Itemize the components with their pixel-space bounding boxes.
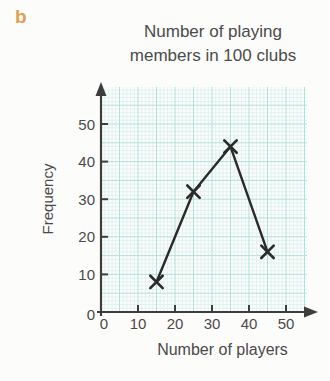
- x-tick-label: 10: [130, 315, 147, 332]
- y-tick-label: 50: [78, 116, 95, 133]
- x-tick-label: 0: [100, 315, 108, 332]
- y-tick-label: 30: [78, 191, 95, 208]
- x-tick-label: 30: [204, 315, 221, 332]
- x-axis-label: Number of players: [115, 341, 330, 359]
- x-tick-label: 20: [167, 315, 184, 332]
- y-tick-label: 20: [78, 228, 95, 245]
- y-tick-label: 0: [87, 306, 95, 323]
- x-tick-label: 50: [278, 315, 295, 332]
- y-tick-label: 40: [78, 153, 95, 170]
- y-tick-label: 10: [78, 266, 95, 283]
- x-tick-label: 40: [241, 315, 258, 332]
- chart-panel: b Number of playing members in 100 clubs…: [0, 0, 330, 381]
- x-axis-arrow-icon: [304, 307, 318, 318]
- frequency-polygon-chart: 0102030405001020304050: [0, 0, 330, 381]
